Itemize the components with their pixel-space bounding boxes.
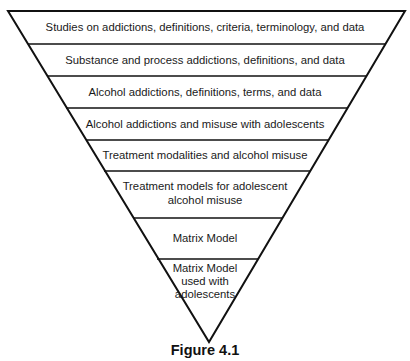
level-8-label-line-3: adolescents (0, 288, 410, 301)
level-6-label-line-2: alcohol misuse (0, 194, 410, 207)
level-7-label: Matrix Model (0, 232, 410, 245)
level-1-label: Studies on addictions, definitions, crit… (0, 21, 410, 34)
level-8-label-line-2: used with (0, 275, 410, 288)
level-4-label: Alcohol addictions and misuse with adole… (0, 118, 410, 131)
level-2-label: Substance and process addictions, defini… (0, 54, 410, 67)
level-5-label: Treatment modalities and alcohol misuse (0, 149, 410, 162)
level-8-label-line-1: Matrix Model (0, 262, 410, 275)
figure-caption: Figure 4.1 (0, 342, 410, 358)
level-3-label: Alcohol addictions, definitions, terms, … (0, 86, 410, 99)
level-6-label-line-1: Treatment models for adolescent (0, 180, 410, 193)
